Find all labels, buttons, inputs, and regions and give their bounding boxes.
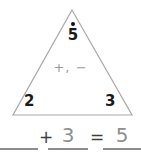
triangle-vertex-top: 5: [62, 22, 84, 52]
triangle-right-value: 3: [105, 94, 115, 109]
fact-family-worksheet: 5 2 3 +, − + 3 = 5: [0, 0, 141, 152]
triangle-top-value: 5: [62, 28, 84, 43]
equation-addend2-blank[interactable]: 3: [48, 122, 88, 150]
triangle-left-value: 2: [24, 94, 34, 109]
equation-addend1-blank[interactable]: [0, 122, 38, 150]
equation-sum-blank[interactable]: 5: [103, 122, 141, 150]
number-bond-triangle: 5 2 3 +, −: [0, 0, 141, 120]
equation-equals-operator: =: [90, 126, 102, 148]
triangle-operators-label: +, −: [0, 60, 141, 75]
equation-row: + 3 = 5: [0, 120, 141, 152]
